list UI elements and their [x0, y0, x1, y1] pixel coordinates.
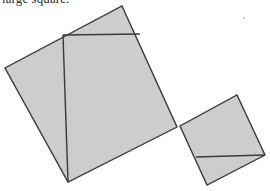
- speckle-right-edge: [254, 152, 256, 154]
- speckle-mid-lower: [131, 150, 133, 152]
- large-square-horizontal-chord: [63, 34, 140, 35]
- small-square-shape: [180, 95, 265, 185]
- speckle-upper-right: [243, 17, 245, 19]
- geometry-figure: [0, 0, 270, 191]
- figure-page: large square.: [0, 0, 270, 191]
- large-square-shape: [5, 6, 177, 182]
